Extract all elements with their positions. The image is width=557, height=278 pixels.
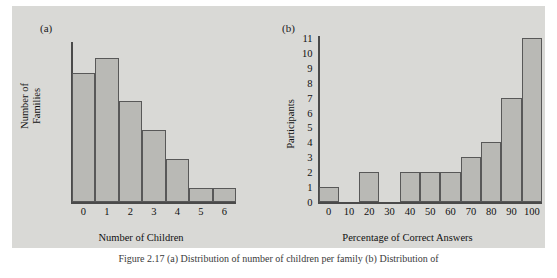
panel-b-y-tick: 8 [297,77,313,88]
panel-a-bar [142,130,166,202]
panel-b-y-tick: 10 [297,47,313,58]
panel-b-y-axis-line [318,36,320,203]
panel-b-plot-area: 0102030405060708090100 01234567891011 [270,6,545,248]
panel-b-y-tick: 5 [297,122,313,133]
panel-b-y-tick: 1 [297,182,313,193]
panel-b-y-tick: 7 [297,92,313,103]
panel-b-bar [420,172,440,202]
panel-b-x-tick: 50 [425,206,436,217]
panel-b-x-tick: 10 [344,206,355,217]
panel-b-y-tick: 9 [297,62,313,73]
panel-b-y-tick: 2 [297,167,313,178]
panel-b-y-tick: 0 [297,197,313,208]
panel-b-bar [501,98,521,202]
panel-a-bar [166,159,190,202]
panel-a-x-axis-line [71,202,236,204]
panel-b-x-tick: 0 [326,206,331,217]
panel-b-y-tick: 4 [297,137,313,148]
panel-b-x-tick: 70 [466,206,477,217]
panel-a-x-axis-title: Number of Children [12,232,270,243]
panel-b-bar [359,172,379,202]
panel-a-bar [119,101,143,202]
panel-b-x-axis-line [318,202,542,204]
panel-b-bar [319,187,339,202]
panel-b-bar [522,38,542,202]
panel-a-x-tick: 6 [222,206,227,217]
chart-panel-b: (b) Participants 0102030405060708090100 … [270,6,545,248]
panel-b-bar [481,142,501,202]
panel-b-x-axis-title: Percentage of Correct Answers [270,232,545,243]
panel-b-y-tick: 6 [297,107,313,118]
panel-b-x-tick: 80 [486,206,497,217]
panel-a-x-tick: 3 [151,206,156,217]
panel-b-y-tick: 3 [297,152,313,163]
panel-a-bar [189,188,213,202]
panel-b-x-tick: 40 [405,206,416,217]
panel-b-x-tick: 90 [506,206,517,217]
panel-a-x-tick: 1 [104,206,109,217]
panel-b-x-tick: 100 [524,206,540,217]
panel-a-bar [72,73,96,202]
figure-panel-background: (a) Number of Families 0123456 Number of… [12,6,545,248]
chart-panel-a: (a) Number of Families 0123456 Number of… [12,6,270,248]
panel-a-bar [95,58,119,202]
panel-a-plot-area: 0123456 [12,6,270,248]
panel-b-bar [440,172,460,202]
panel-b-bar [461,157,481,202]
panel-a-x-tick: 4 [175,206,180,217]
figure-caption: Figure 2.17 (a) Distribution of number o… [0,252,557,278]
panel-a-x-tick: 0 [81,206,86,217]
panel-a-bar [213,188,237,202]
panel-a-x-tick: 5 [198,206,203,217]
panel-b-x-tick: 30 [384,206,395,217]
panel-a-x-tick: 2 [128,206,133,217]
panel-b-x-tick: 20 [364,206,375,217]
panel-b-bar [400,172,420,202]
panel-b-x-tick: 60 [445,206,456,217]
panel-b-y-tick: 11 [297,33,313,44]
